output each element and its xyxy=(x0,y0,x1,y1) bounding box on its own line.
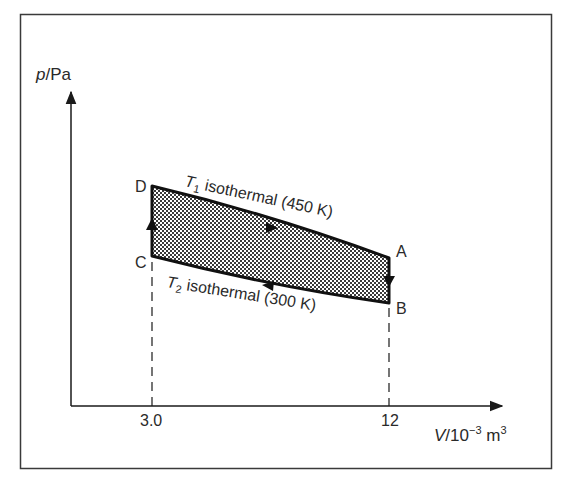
x-axis-unit-m: m xyxy=(482,426,501,445)
point-label-c: C xyxy=(135,254,147,271)
y-axis-unit: /Pa xyxy=(45,65,71,84)
x-tick-3: 3.0 xyxy=(140,412,162,429)
point-label-a: A xyxy=(396,243,407,260)
x-axis-unit-m-exp: 3 xyxy=(500,424,506,436)
point-label-d: D xyxy=(135,178,147,195)
point-label-b: B xyxy=(396,300,407,317)
x-axis-label: V/10−3 m3 xyxy=(434,424,507,445)
x-axis-unit-prefix: /10 xyxy=(445,426,469,445)
x-axis-unit-exp: −3 xyxy=(469,424,482,436)
y-axis-var: p xyxy=(35,65,45,84)
pv-diagram: p/Pa V/10−3 m3 3.0 12 D C A B T1 isother… xyxy=(0,0,563,482)
x-tick-12: 12 xyxy=(381,412,399,429)
y-axis-label: p/Pa xyxy=(35,65,72,84)
